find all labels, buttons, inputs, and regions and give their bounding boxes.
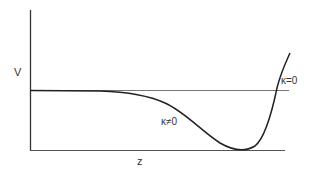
- kappa-zero-label: κ=0: [281, 76, 297, 86]
- kappa-nonzero-label: κ≠0: [161, 117, 177, 127]
- y-axis-label: V: [14, 67, 21, 78]
- potential-diagram: [0, 0, 317, 175]
- kappa-nonzero-curve: [30, 53, 290, 150]
- x-axis-label: z: [137, 156, 143, 167]
